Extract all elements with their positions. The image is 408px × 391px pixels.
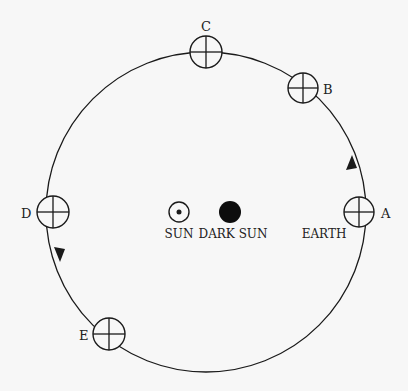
earth-position-a: A — [344, 197, 391, 227]
orbit-path — [46, 52, 366, 372]
earth-label: EARTH — [302, 227, 347, 241]
earth-position-e: E — [79, 318, 125, 350]
position-label: D — [21, 206, 31, 221]
dark-sun-icon — [219, 201, 241, 223]
position-label: C — [201, 19, 211, 34]
dark-sun-label: DARK SUN — [199, 227, 268, 241]
orbit-direction-arrow-icon — [54, 247, 65, 262]
position-label: E — [79, 328, 89, 343]
dark-sun: DARK SUN — [199, 201, 268, 241]
earth-position-c: C — [190, 19, 222, 68]
position-label: A — [380, 206, 391, 221]
orbit-diagram: A B C D E SUN DARK SUN EARTH — [0, 0, 408, 391]
sun: SUN — [165, 202, 194, 241]
sun-label: SUN — [165, 227, 194, 241]
earth-position-b: B — [288, 73, 333, 103]
orbit-direction-arrow-icon — [346, 155, 357, 170]
earth-position-d: D — [21, 196, 69, 228]
position-label: B — [323, 82, 333, 97]
